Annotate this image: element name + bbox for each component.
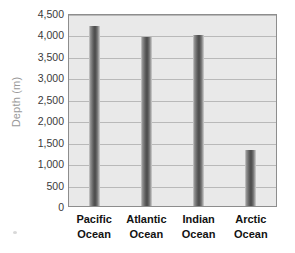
x-axis-label-indian-ocean: IndianOcean (173, 212, 225, 241)
x-axis-category-labels: PacificOceanAtlanticOceanIndianOceanArct… (68, 212, 277, 250)
y-axis-tick-label: 4,000 (22, 30, 64, 41)
y-axis-tick-label: 1,500 (22, 137, 64, 148)
bars-group (69, 15, 276, 206)
bar-pacific-ocean (89, 26, 100, 206)
bar-chart-figure: Depth (m) 4,5004,0003,5003,0002,5002,000… (0, 0, 295, 253)
y-axis-title: Depth (m) (10, 62, 22, 142)
y-axis-tick-label: 4,500 (22, 9, 64, 20)
bar-indian-ocean (193, 35, 204, 206)
y-axis-tick-label: 3,500 (22, 52, 64, 63)
y-axis-tick-label: 1,000 (22, 159, 64, 170)
scan-artifact-speck (13, 231, 17, 234)
x-axis-label-arctic-ocean: ArcticOcean (225, 212, 277, 241)
y-axis-tick-label: 2,000 (22, 116, 64, 127)
x-axis-label-line: Pacific (68, 212, 120, 227)
bar-slot (224, 15, 276, 206)
y-axis-tick-label: 2,500 (22, 95, 64, 106)
x-axis-label-line: Ocean (68, 227, 120, 242)
bar-slot (121, 15, 173, 206)
x-axis-label-line: Atlantic (120, 212, 172, 227)
x-axis-label-pacific-ocean: PacificOcean (68, 212, 120, 241)
x-axis-label-line: Ocean (120, 227, 172, 242)
x-axis-label-line: Ocean (225, 227, 277, 242)
x-axis-label-line: Indian (173, 212, 225, 227)
y-axis-tick-label: 0 (22, 202, 64, 213)
y-axis-tick-labels: 4,5004,0003,5003,0002,5002,0001,5001,000… (22, 14, 64, 207)
bar-arctic-ocean (245, 150, 256, 206)
x-axis-label-line: Arctic (225, 212, 277, 227)
y-axis-tick-label: 500 (22, 180, 64, 191)
bar-slot (173, 15, 225, 206)
bar-slot (69, 15, 121, 206)
y-axis-tick-label: 3,000 (22, 73, 64, 84)
x-axis-label-atlantic-ocean: AtlanticOcean (120, 212, 172, 241)
x-axis-label-line: Ocean (173, 227, 225, 242)
plot-area (68, 14, 277, 207)
bar-atlantic-ocean (141, 37, 152, 206)
